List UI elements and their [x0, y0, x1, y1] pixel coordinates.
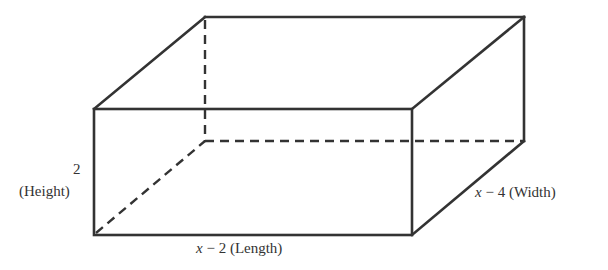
length-label: x − 2 (Length) — [196, 240, 282, 257]
length-name: (Length) — [230, 240, 282, 256]
box-diagram — [0, 0, 608, 270]
width-label: x − 4 (Width) — [475, 184, 556, 201]
top-right-edge — [412, 17, 524, 109]
length-expression: − 2 — [203, 240, 230, 256]
front-face — [94, 109, 412, 235]
height-value-label: 2 — [73, 161, 81, 178]
top-left-edge — [94, 17, 205, 109]
height-name-label: (Height) — [19, 183, 70, 200]
hidden-bottom-left-edge — [96, 141, 205, 233]
width-expression: − 4 — [482, 184, 509, 200]
length-variable: x — [196, 240, 203, 256]
width-name: (Width) — [509, 184, 556, 200]
width-variable: x — [475, 184, 482, 200]
